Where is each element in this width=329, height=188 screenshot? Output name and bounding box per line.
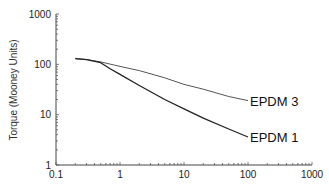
y-tick-label: 100 [34, 59, 51, 70]
y-tick-labels: 1101001000 [29, 9, 52, 171]
x-tick-label: 0.1 [49, 169, 63, 180]
series-label-epdm-1: EPDM 1 [250, 130, 298, 145]
x-tick-label: 1 [117, 169, 123, 180]
series-group: EPDM 3EPDM 1 [75, 59, 298, 145]
chart: Torque (Mooney Units) 1101001000 0.11101… [0, 0, 329, 188]
series-label-epdm-3: EPDM 3 [250, 94, 298, 109]
series-line-epdm-1 [75, 59, 248, 137]
x-tick-label: 100 [240, 169, 257, 180]
x-tick-labels: 0.11101001000 [49, 169, 324, 180]
x-tick-label: 10 [178, 169, 190, 180]
y-tick-label: 10 [40, 109, 52, 120]
y-axis-title: Torque (Mooney Units) [8, 39, 19, 140]
y-tick-label: 1000 [29, 9, 52, 20]
series-line-epdm-3 [75, 59, 248, 101]
x-tick-label: 1000 [301, 169, 324, 180]
